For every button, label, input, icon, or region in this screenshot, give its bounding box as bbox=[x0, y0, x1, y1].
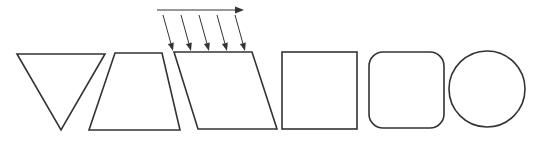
slanted-shear-arrow-shaft bbox=[217, 15, 225, 43]
slanted-shear-arrow-head-icon bbox=[222, 42, 228, 51]
slanted-shear-arrow-head-icon bbox=[168, 42, 174, 51]
slanted-shear-arrow-head-icon bbox=[186, 42, 192, 51]
trapezoid-shape bbox=[89, 53, 180, 130]
slanted-shear-arrow-head-icon bbox=[204, 42, 210, 51]
parallelogram-shape bbox=[174, 52, 277, 129]
horizontal-shear-arrow-head-icon bbox=[235, 7, 244, 14]
slanted-shear-arrow-shaft bbox=[163, 15, 171, 43]
triangle-shape bbox=[17, 54, 105, 130]
slanted-shear-arrow-head-icon bbox=[240, 42, 246, 51]
square-shape bbox=[282, 52, 357, 129]
shear-arrows bbox=[157, 7, 246, 51]
circle-shape bbox=[449, 51, 525, 127]
slanted-shear-arrow-shaft bbox=[199, 15, 207, 43]
slanted-shear-arrow-shaft bbox=[181, 15, 189, 43]
slanted-shear-arrow-shaft bbox=[235, 15, 243, 43]
rounded-square-shape bbox=[369, 52, 444, 128]
shape-diagram bbox=[0, 0, 539, 143]
